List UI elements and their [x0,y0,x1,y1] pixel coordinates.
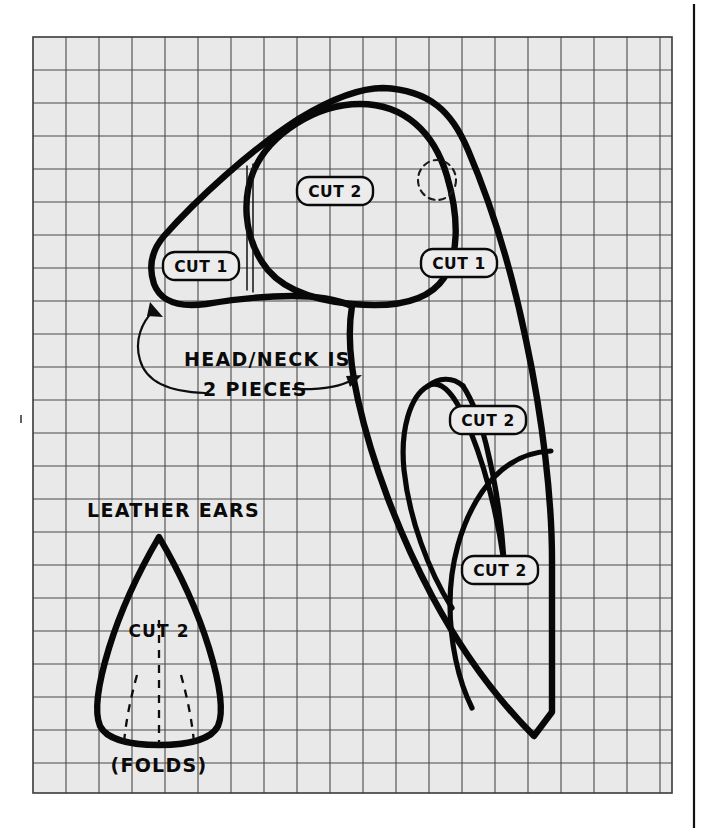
grid-area [33,37,672,793]
label-body-cut1-right[interactable]: CUT 1 [421,249,497,277]
annotation-leather-ears: LEATHER EARS [87,499,260,521]
label-gusset-cut2-lower[interactable]: CUT 2 [462,556,538,584]
grid-background [33,37,672,793]
label-head-cut2-text: CUT 2 [308,183,362,201]
label-head-cut2[interactable]: CUT 2 [297,177,373,205]
label-body-cut1-left[interactable]: CUT 1 [163,252,239,280]
annotation-head-neck-line1: HEAD/NECK IS [184,348,351,370]
pattern-sheet: CUT 2 CUT 1 CUT 1 CUT 2 CUT 2 CUT 2 HEAD… [0,0,701,832]
pattern-diagram: CUT 2 CUT 1 CUT 1 CUT 2 CUT 2 CUT 2 HEAD… [0,0,701,832]
label-gusset-cut2-upper-text: CUT 2 [461,412,515,430]
label-gusset-cut2-upper[interactable]: CUT 2 [450,406,526,434]
label-ear-cut2-text: CUT 2 [128,621,189,641]
annotation-folds: (FOLDS) [110,754,207,776]
label-body-cut1-left-text: CUT 1 [174,258,228,276]
label-body-cut1-right-text: CUT 1 [432,255,486,273]
label-gusset-cut2-lower-text: CUT 2 [473,562,527,580]
annotation-head-neck-line2: 2 PIECES [203,378,308,400]
